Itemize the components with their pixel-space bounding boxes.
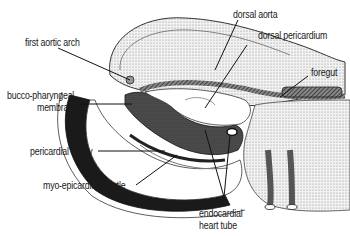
label-dorsal-pericardium: dorsal pericardium (258, 30, 327, 41)
anatomy-diagram: first aortic arch dorsal aorta dorsal pe… (0, 0, 350, 236)
label-first-aortic-arch: first aortic arch (25, 37, 80, 48)
right-tissue (244, 100, 350, 211)
label-bucco-pharyngeal-line1: bucco-pharyngeal (7, 90, 74, 101)
label-endocardial-line1: endocardial (199, 208, 243, 219)
label-dorsal-aorta: dorsal aorta (233, 9, 277, 20)
label-foregut: foregut (311, 67, 337, 78)
label-myo-epicardial-mantle: myo-epicardial mantle (43, 180, 125, 191)
label-pericardial-cavity: pericardial cavity (30, 146, 92, 157)
label-endocardial-line2: heart tube (199, 220, 237, 231)
label-bucco-pharyngeal-line2: membrane (37, 102, 78, 113)
